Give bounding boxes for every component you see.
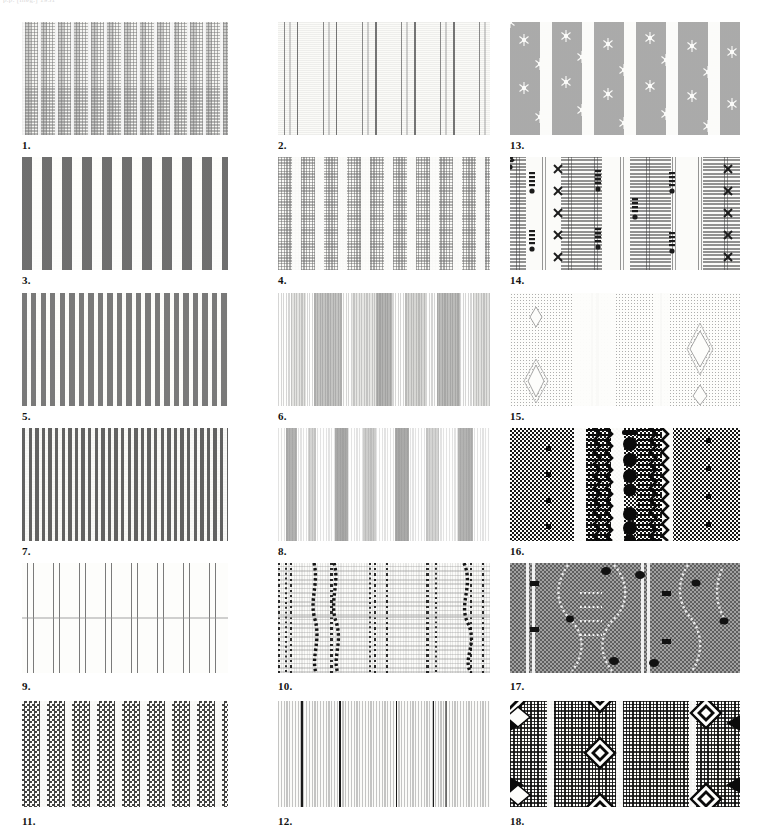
swatch-image-2[interactable] [278,22,490,135]
swatch-cell-11[interactable]: 11. [0,691,256,826]
swatch-image-9[interactable] [22,563,228,673]
plate-header-note: p.p. [illeg.] 1931 [3,0,55,4]
swatch-cell-3[interactable]: 3. [0,149,256,284]
lozenge-motif-layer [510,293,740,406]
swatch-cell-8[interactable]: 8. [256,420,506,555]
swatch-cell-17[interactable]: 17. [506,555,784,690]
wavy-bead-motif-layer [278,563,490,673]
swatch-cell-9[interactable]: 9. [0,555,256,690]
swatch-cell-13[interactable]: 13. [506,14,784,149]
swatch-cell-7[interactable]: 7. [0,420,256,555]
swatch-image-1[interactable] [22,22,228,135]
swatch-image-3[interactable] [22,157,228,270]
zigzag-dot-motif-layer [510,428,740,541]
swatch-cell-1[interactable]: 1. [0,14,256,149]
swatch-plate-grid: 1. 2. [0,14,784,826]
swatch-image-11[interactable] [22,701,228,807]
diamond-motif-layer [510,701,740,807]
swatch-cell-14[interactable]: 14. [506,149,784,284]
swatch-cell-16[interactable]: 16. [506,420,784,555]
swatch-cell-6[interactable]: 6. [256,285,506,420]
swatch-image-16[interactable] [510,428,740,541]
sprig-motif-layer [510,22,740,135]
swatch-image-4[interactable] [278,157,490,270]
swatch-image-17[interactable] [510,563,740,673]
swatch-image-8[interactable] [278,428,490,541]
swatch-image-15[interactable] [510,293,740,406]
vine-nub-motif-layer [510,563,740,673]
swatch-image-13[interactable] [510,22,740,135]
swatch-cell-2[interactable]: 2. [256,14,506,149]
swatch-caption-18: 18. [510,815,524,827]
swatch-image-18[interactable] [510,701,740,807]
swatch-caption-11: 11. [22,815,36,827]
swatch-image-14[interactable] [510,157,740,270]
cross-dot-motif-layer [510,157,740,270]
swatch-cell-4[interactable]: 4. [256,149,506,284]
swatch-cell-10[interactable]: 10. [256,555,506,690]
swatch-cell-12[interactable]: 12. [256,691,506,826]
swatch-image-10[interactable] [278,563,490,673]
swatch-cell-15[interactable]: 15. [506,285,784,420]
swatch-cell-18[interactable]: 18. [506,691,784,826]
swatch-image-12[interactable] [278,701,490,807]
swatch-image-7[interactable] [22,428,228,541]
swatch-image-6[interactable] [278,293,490,406]
swatch-image-5[interactable] [22,293,228,406]
swatch-caption-12: 12. [278,815,292,827]
swatch-cell-5[interactable]: 5. [0,285,256,420]
